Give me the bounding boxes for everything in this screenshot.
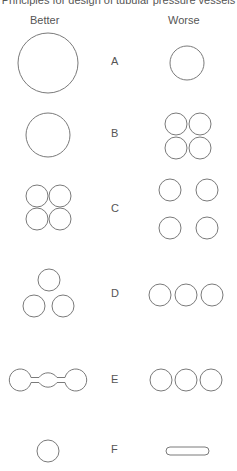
- row-e-worse-separate-circles: [150, 369, 222, 391]
- row-a-worse-small-circle: [170, 46, 204, 80]
- row-b-better-single-circle: [26, 113, 70, 157]
- row-d-worse-linear-arrangement: [149, 284, 223, 306]
- row-f-worse-flattened-pill: [166, 447, 209, 455]
- row-a-better-large-circle: [18, 33, 78, 93]
- row-c-worse-spaced-cluster: [159, 179, 218, 239]
- row-b-worse-four-circle-cluster: [165, 113, 211, 159]
- design-principles-figure: [0, 0, 237, 471]
- row-e-better-connected-chain: [9, 369, 86, 391]
- row-d-better-triangle-arrangement: [23, 269, 74, 317]
- row-c-better-touching-cluster: [26, 185, 71, 230]
- row-f-better-round-circle: [37, 440, 59, 462]
